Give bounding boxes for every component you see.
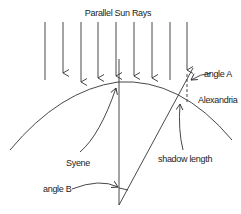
earth-surface-curve bbox=[10, 82, 232, 150]
angle-b-mark bbox=[119, 188, 128, 190]
angle-b-label: angle B bbox=[43, 184, 72, 194]
diagram-title: Parallel Sun Rays bbox=[85, 8, 152, 18]
sun-rays bbox=[45, 22, 187, 82]
eratosthenes-diagram: Parallel Sun Rays angle A Alexandria Sye… bbox=[0, 0, 241, 214]
shadow-length-pointer-arrow-icon bbox=[179, 104, 183, 150]
syene-label: Syene bbox=[66, 158, 90, 168]
alexandria-label: Alexandria bbox=[198, 95, 238, 105]
angle-a-label: angle A bbox=[204, 69, 232, 79]
syene-pointer-arrow-icon bbox=[80, 88, 116, 152]
angle-b-pointer-arrow-icon bbox=[72, 183, 118, 189]
alexandria-radius-line bbox=[119, 68, 193, 205]
shadow-length-label: shadow length bbox=[158, 154, 212, 164]
